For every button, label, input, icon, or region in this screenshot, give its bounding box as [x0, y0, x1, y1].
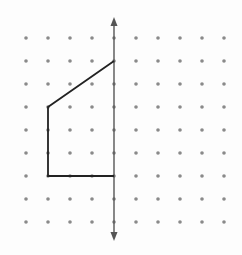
grid-dot [134, 197, 138, 201]
grid-dot [68, 151, 72, 155]
grid-dot [24, 36, 28, 40]
grid-dot [178, 128, 182, 132]
grid-dot [90, 197, 94, 201]
dot-grid-diagram [0, 0, 242, 255]
grid-dot [24, 197, 28, 201]
grid-dot [90, 36, 94, 40]
grid-dot [134, 82, 138, 86]
grid-dot [24, 220, 28, 224]
grid-dot [68, 36, 72, 40]
grid-dot [24, 82, 28, 86]
grid-dot [178, 105, 182, 109]
grid-dot [134, 59, 138, 63]
grid-dot [24, 151, 28, 155]
polyline-figure [48, 61, 114, 176]
grid-dot [156, 59, 160, 63]
grid-dot [156, 128, 160, 132]
grid-dot [90, 220, 94, 224]
grid-dot [200, 82, 204, 86]
grid-dot [90, 82, 94, 86]
grid-dot [222, 220, 226, 224]
grid-dot [134, 220, 138, 224]
grid-dot [24, 128, 28, 132]
grid-dot [156, 82, 160, 86]
grid-dot [68, 128, 72, 132]
grid-dot [134, 105, 138, 109]
grid-dot [134, 128, 138, 132]
grid-dot [156, 36, 160, 40]
grid-dot [46, 59, 50, 63]
arrow-up-icon [111, 17, 118, 26]
grid-dot [90, 128, 94, 132]
grid-dot [46, 220, 50, 224]
grid-dot [200, 36, 204, 40]
grid-dot [200, 105, 204, 109]
grid-dot [200, 174, 204, 178]
grid-dot [24, 105, 28, 109]
grid-dot [222, 36, 226, 40]
grid-dot [200, 220, 204, 224]
grid-dot [90, 105, 94, 109]
grid-dot [222, 174, 226, 178]
grid-dot [68, 220, 72, 224]
line-of-reflection [111, 17, 118, 241]
grid-dot [222, 151, 226, 155]
grid-dot [68, 197, 72, 201]
grid-dot [156, 174, 160, 178]
figure-outline [48, 61, 114, 176]
grid-dot [222, 128, 226, 132]
grid-dot [90, 151, 94, 155]
grid-dot [46, 82, 50, 86]
grid-dot [134, 174, 138, 178]
grid-dots [24, 36, 226, 224]
grid-dot [178, 82, 182, 86]
grid-dot [68, 59, 72, 63]
grid-dot [178, 59, 182, 63]
diagram-svg [0, 0, 242, 255]
grid-dot [178, 220, 182, 224]
grid-dot [24, 174, 28, 178]
grid-dot [200, 128, 204, 132]
grid-dot [156, 151, 160, 155]
arrow-down-icon [111, 232, 118, 241]
grid-dot [178, 151, 182, 155]
grid-dot [46, 36, 50, 40]
grid-dot [178, 36, 182, 40]
grid-dot [222, 197, 226, 201]
grid-dot [68, 105, 72, 109]
grid-dot [178, 197, 182, 201]
grid-dot [222, 105, 226, 109]
grid-dot [156, 105, 160, 109]
grid-dot [90, 59, 94, 63]
grid-dot [200, 151, 204, 155]
grid-dot [200, 59, 204, 63]
grid-dot [222, 59, 226, 63]
grid-dot [134, 36, 138, 40]
grid-dot [156, 197, 160, 201]
grid-dot [222, 82, 226, 86]
grid-dot [178, 174, 182, 178]
grid-dot [68, 82, 72, 86]
grid-dot [200, 197, 204, 201]
grid-dot [156, 220, 160, 224]
grid-dot [46, 197, 50, 201]
grid-dot [24, 59, 28, 63]
grid-dot [134, 151, 138, 155]
